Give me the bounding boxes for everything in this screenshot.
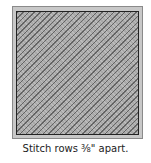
quilt-binding bbox=[12, 6, 143, 139]
figure-caption: Stitch rows ⅜" apart. bbox=[0, 143, 151, 154]
quilted-square-diagonal-stitching bbox=[16, 11, 139, 135]
